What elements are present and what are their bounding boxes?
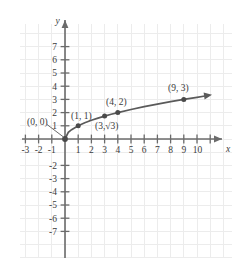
x-tick-label: -3 xyxy=(21,145,29,155)
x-axis-label: x xyxy=(225,144,231,154)
x-tick-label: -2 xyxy=(35,145,43,155)
data-point-9-3 xyxy=(181,97,186,102)
y-tick-label: 7 xyxy=(52,42,57,52)
curve-arrowhead xyxy=(204,93,212,100)
x-tick-label: 8 xyxy=(168,145,173,155)
x-tick-label: -1 xyxy=(48,145,56,155)
point-label-origin: (0, 0) xyxy=(27,117,48,128)
plot-canvas: -3 -2 -1 1 2 3 4 5 6 7 8 9 10 7 6 5 4 3 … xyxy=(0,0,243,266)
x-tick-label: 6 xyxy=(142,145,147,155)
x-tick-label: 2 xyxy=(89,145,94,155)
x-tick-label: 4 xyxy=(115,145,120,155)
x-tick-label: 3 xyxy=(102,145,107,155)
point-label-nine-three: (9, 3) xyxy=(168,83,189,94)
x-tick-label: 9 xyxy=(181,145,186,155)
y-tick-label: 4 xyxy=(52,82,57,92)
y-tick-label: -3 xyxy=(49,174,57,184)
data-point-3-root3 xyxy=(102,114,107,119)
axis-arrowheads xyxy=(62,20,222,142)
x-tick-label: 10 xyxy=(193,145,203,155)
data-point-1-1 xyxy=(76,123,81,128)
y-tick-label: 2 xyxy=(52,108,57,118)
y-tick-label: 1 xyxy=(52,121,57,131)
x-tick-label: 7 xyxy=(155,145,160,155)
y-tick-label: -2 xyxy=(49,161,57,171)
graph-figure: -3 -2 -1 1 2 3 4 5 6 7 8 9 10 7 6 5 4 3 … xyxy=(0,0,243,266)
x-tick-label: 5 xyxy=(129,145,134,155)
data-point-4-2 xyxy=(115,110,120,115)
point-label-four-two: (4, 2) xyxy=(106,97,127,108)
y-tick-label: -4 xyxy=(49,187,57,197)
y-tick-label: 6 xyxy=(52,55,57,65)
x-tick-labels: -3 -2 -1 1 2 3 4 5 6 7 8 9 10 xyxy=(21,145,202,155)
y-tick-label: -5 xyxy=(49,200,57,210)
point-label-three-root3: (3,√3) xyxy=(95,121,118,132)
y-axis-arrow xyxy=(62,20,69,28)
point-label-one-one: (1, 1) xyxy=(71,111,92,122)
x-tick-label: 1 xyxy=(76,145,81,155)
y-tick-label: -7 xyxy=(49,227,57,237)
y-tick-label: 3 xyxy=(52,95,57,105)
y-axis-label: y xyxy=(54,16,60,26)
x-axis-arrow xyxy=(214,136,222,143)
y-tick-label: -6 xyxy=(49,214,57,224)
y-tick-label: 5 xyxy=(52,68,57,78)
